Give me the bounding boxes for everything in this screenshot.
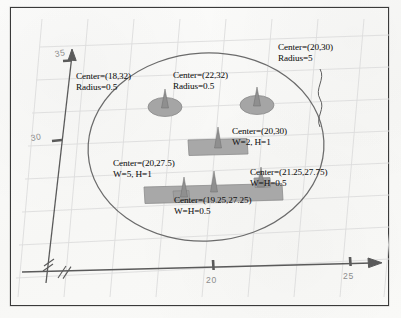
annotation-line-2: Radius=5 xyxy=(278,53,333,64)
annotation-line-1: Center=(20,30) xyxy=(278,42,333,53)
annotation-line-2: W=H=0.5 xyxy=(174,206,251,217)
y-tick-label-35: 35 xyxy=(54,47,66,59)
y-tick-label-30: 30 xyxy=(30,131,42,143)
annotation-right-small-circle: Center=(22,32) Radius=0.5 xyxy=(173,70,228,93)
annotation-big-circle: Center=(20,30) Radius=5 xyxy=(278,42,333,65)
annotation-line-1: Center=(21.25,27.75) xyxy=(250,167,327,178)
x-tick-20 xyxy=(213,260,214,270)
annotation-line-1: Center=(18,32) xyxy=(76,71,131,82)
annotation-line-2: Radius=0.5 xyxy=(76,82,131,93)
annotation-left-small-circle: Center=(18,32) Radius=0.5 xyxy=(76,71,131,94)
annotation-line-1: Center=(20,27.5) xyxy=(113,158,175,169)
annotation-left-square: Center=(19.25,27.25) W=H=0.5 xyxy=(174,195,251,218)
annotation-line-1: Center=(22,32) xyxy=(173,70,228,81)
y-tick-35 xyxy=(63,61,71,62)
annotation-line-1: Center=(20,30) xyxy=(232,126,287,137)
x-axis-break-mark xyxy=(58,266,71,279)
y-axis-arrowhead xyxy=(68,49,76,61)
annotation-right-square: Center=(21.25,27.75) W=H=0.5 xyxy=(250,167,327,190)
annotation-upper-rectangle: Center=(20,30) W=2, H=1 xyxy=(232,126,287,149)
x-axis-line xyxy=(22,263,372,272)
big-circle-leader-line xyxy=(318,69,322,127)
figure-canvas: 35 30 20 25 Center=(20,30) Radius=5 Cent… xyxy=(0,0,401,318)
annotation-line-1: Center=(19.25,27.25) xyxy=(174,195,251,206)
annotation-line-2: Radius=0.5 xyxy=(173,81,228,92)
y-tick-30 xyxy=(52,140,62,141)
annotation-wide-rectangle: Center=(20,27.5) W=5, H=1 xyxy=(113,158,175,181)
x-tick-label-25: 25 xyxy=(343,271,354,281)
x-tick-label-20: 20 xyxy=(206,275,217,285)
annotation-line-2: W=5, H=1 xyxy=(113,169,175,180)
annotation-line-2: W=H=0.5 xyxy=(250,178,327,189)
x-tick-25 xyxy=(350,257,351,266)
annotation-line-2: W=2, H=1 xyxy=(232,137,287,148)
